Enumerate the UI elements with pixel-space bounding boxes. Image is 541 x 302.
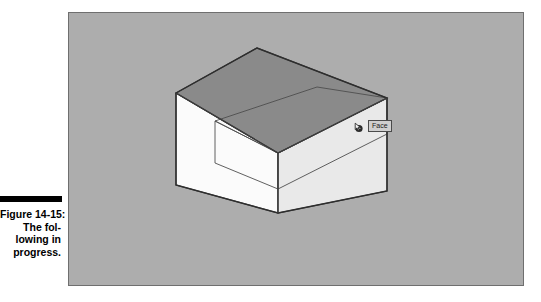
inference-tooltip: Face (354, 120, 392, 131)
caption-line-1: Figure 14-15: (0, 208, 61, 221)
sketchup-model-canvas[interactable] (69, 13, 523, 285)
caption-line-3: lowing in (0, 233, 61, 246)
figure-image-frame: Face (68, 12, 524, 286)
caption-line-2: The fol- (0, 221, 61, 234)
caption-text: Figure 14-15: The fol- lowing in progres… (0, 208, 62, 258)
figure-page: Figure 14-15: The fol- lowing in progres… (0, 0, 541, 302)
figure-caption: Figure 14-15: The fol- lowing in progres… (0, 196, 62, 258)
caption-line-4: progress. (0, 246, 61, 259)
pushpull-cursor-icon (354, 120, 366, 132)
tooltip-label: Face (368, 120, 392, 132)
caption-rule (0, 196, 62, 202)
